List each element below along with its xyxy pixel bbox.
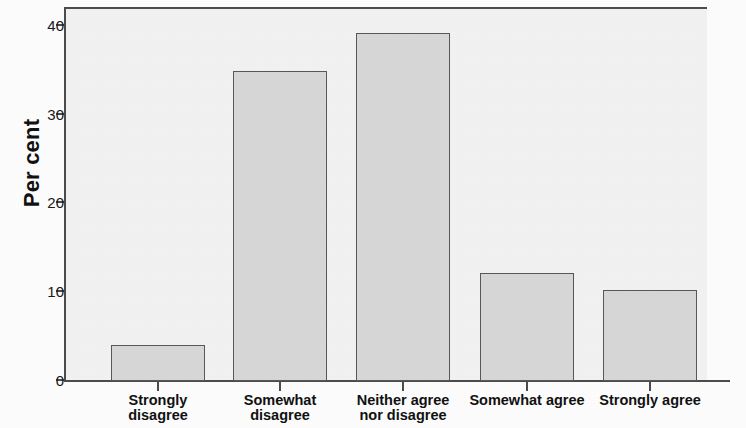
x-axis-tick-mark xyxy=(649,382,651,391)
bar xyxy=(356,33,450,381)
bars-group xyxy=(0,0,746,381)
bar xyxy=(480,273,574,381)
bar xyxy=(111,345,205,381)
bar xyxy=(233,71,327,381)
x-axis-tick-mark xyxy=(279,382,281,391)
bar xyxy=(603,290,697,381)
x-axis-tick-mark xyxy=(526,382,528,391)
x-axis-tick-mark xyxy=(157,382,159,391)
x-axis-tick-label-line: nor disagree xyxy=(328,408,478,423)
bar-chart-figure: Per cent 010203040 StronglydisagreeSomew… xyxy=(0,0,746,428)
x-axis-tick-mark xyxy=(402,382,404,391)
x-axis-tick-label-line: Strongly agree xyxy=(575,393,725,408)
x-axis-tick-label: Strongly agree xyxy=(575,393,725,408)
